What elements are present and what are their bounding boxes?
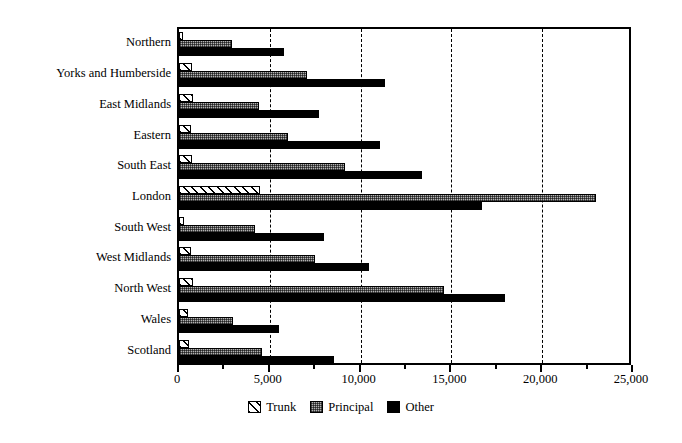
bar-group <box>179 275 629 306</box>
bar-other <box>179 263 369 271</box>
bar-trunk <box>179 247 191 255</box>
bar-principal <box>179 194 596 202</box>
bar-principal <box>179 286 444 294</box>
y-axis-label: East Midlands <box>0 98 171 111</box>
y-axis-label: Yorks and Humberside <box>0 67 171 80</box>
bar-principal <box>179 71 307 79</box>
y-axis-label: Scotland <box>0 344 171 357</box>
bar-trunk <box>179 278 193 286</box>
bar-principal <box>179 255 315 263</box>
x-tick-minor <box>495 365 497 369</box>
bar-other <box>179 294 505 302</box>
bar-other <box>179 141 380 149</box>
legend-item-other[interactable]: Other <box>387 400 433 414</box>
bar-trunk <box>179 340 189 348</box>
bar-principal <box>179 348 262 356</box>
bar-other <box>179 171 422 179</box>
bar-rows <box>179 29 629 363</box>
bar-group <box>179 183 629 214</box>
bar-trunk <box>179 309 188 317</box>
bar-group <box>179 244 629 275</box>
y-axis-label: Northern <box>0 36 171 49</box>
bar-other <box>179 356 334 364</box>
bar-other <box>179 110 319 118</box>
legend-swatch-icon <box>387 401 400 413</box>
legend-item-trunk[interactable]: Trunk <box>248 400 296 414</box>
x-axis-tick-labels: 05,00010,00015,00020,00025,000 <box>0 372 682 390</box>
bar-chart: NorthernYorks and HumbersideEast Midland… <box>0 0 682 443</box>
legend-label: Trunk <box>266 400 296 414</box>
bar-trunk <box>179 217 184 225</box>
x-tick-label: 20,000 <box>523 372 557 387</box>
x-tick-major <box>540 365 542 372</box>
x-tick-label: 15,000 <box>432 372 466 387</box>
bar-principal <box>179 102 259 110</box>
bar-group <box>179 152 629 183</box>
bar-principal <box>179 133 288 141</box>
bar-trunk <box>179 94 193 102</box>
bar-group <box>179 213 629 244</box>
x-tick-minor <box>222 365 224 369</box>
bar-other <box>179 48 284 56</box>
bar-group <box>179 306 629 337</box>
bar-trunk <box>179 63 192 71</box>
x-tick-major <box>268 365 270 372</box>
x-tick-label: 5,000 <box>254 372 282 387</box>
bar-group <box>179 29 629 60</box>
y-axis-label: Wales <box>0 313 171 326</box>
bar-other <box>179 233 324 241</box>
x-tick-minor <box>586 365 588 369</box>
y-axis-label: North West <box>0 282 171 295</box>
legend-label: Other <box>405 400 433 414</box>
x-tick-major <box>631 365 633 372</box>
x-tick-major <box>177 365 179 372</box>
bar-other <box>179 79 385 87</box>
x-tick-label: 25,000 <box>614 372 648 387</box>
y-axis-label: Eastern <box>0 129 171 142</box>
y-axis-label: South West <box>0 221 171 234</box>
bar-trunk <box>179 155 192 163</box>
bar-trunk <box>179 125 191 133</box>
bar-group <box>179 90 629 121</box>
x-tick-label: 10,000 <box>341 372 375 387</box>
bar-principal <box>179 317 233 325</box>
legend-label: Principal <box>328 400 373 414</box>
x-tick-minor <box>404 365 406 369</box>
legend-swatch-icon <box>310 401 323 413</box>
x-tick-label: 0 <box>174 372 180 387</box>
bar-group <box>179 60 629 91</box>
bar-trunk <box>179 32 183 40</box>
bar-other <box>179 202 482 210</box>
y-axis-labels: NorthernYorks and HumbersideEast Midland… <box>0 27 171 365</box>
y-axis-label: South East <box>0 159 171 172</box>
bar-group <box>179 336 629 365</box>
x-tick-major <box>359 365 361 372</box>
y-axis-label: West Midlands <box>0 251 171 264</box>
legend-swatch-icon <box>248 401 261 413</box>
bar-group <box>179 121 629 152</box>
bar-principal <box>179 163 345 171</box>
plot-area <box>177 27 631 365</box>
bar-principal <box>179 225 255 233</box>
bar-trunk <box>179 186 260 194</box>
chart-legend: TrunkPrincipalOther <box>0 400 682 414</box>
x-tick-major <box>449 365 451 372</box>
bar-principal <box>179 40 232 48</box>
legend-item-principal[interactable]: Principal <box>310 400 373 414</box>
x-tick-minor <box>313 365 315 369</box>
y-axis-label: London <box>0 190 171 203</box>
bar-other <box>179 325 279 333</box>
